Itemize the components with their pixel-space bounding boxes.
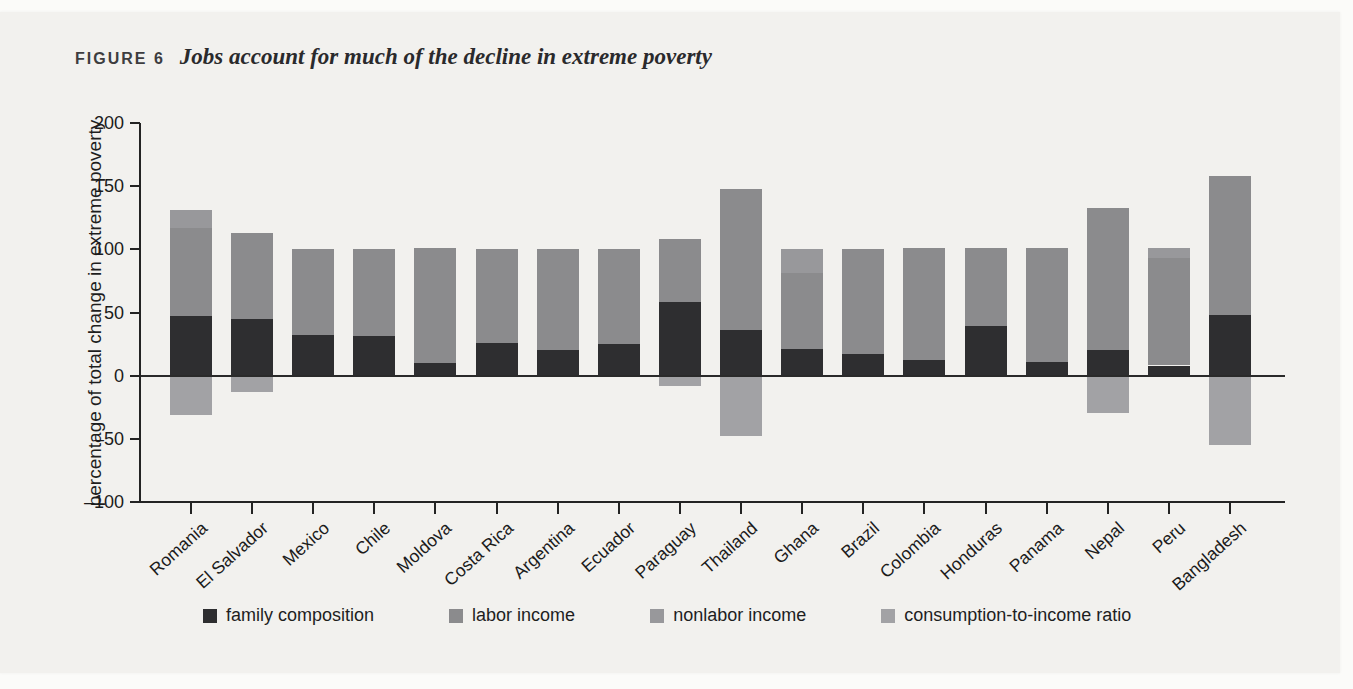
bar-segment-romania <box>170 210 212 228</box>
bar-segment-paraguay <box>659 239 701 302</box>
bar-segment-romania <box>170 316 212 375</box>
bar-segment-chile <box>353 249 395 336</box>
x-tick <box>985 503 987 514</box>
bar-segment-romania <box>170 228 212 316</box>
bar-segment-nepal <box>1087 376 1129 414</box>
x-tick <box>434 503 436 514</box>
y-tick <box>130 312 140 314</box>
bar-segment-bangladesh <box>1209 176 1251 315</box>
legend-item: labor income <box>449 605 575 626</box>
bar-segment-mexico <box>292 335 334 375</box>
legend-label: labor income <box>472 605 575 626</box>
legend-item: consumption-to-income ratio <box>881 605 1131 626</box>
y-tick <box>130 122 140 124</box>
bar-segment-el-salvador <box>231 376 273 392</box>
x-tick <box>679 503 681 514</box>
x-tick <box>801 503 803 514</box>
y-tick <box>130 438 140 440</box>
bar-segment-colombia <box>903 248 945 360</box>
legend-swatch <box>650 609 664 623</box>
legend-label: family composition <box>226 605 374 626</box>
bar-segment-moldova <box>414 363 456 376</box>
y-tick-label: 150 <box>60 175 124 197</box>
x-tick <box>862 503 864 514</box>
x-tick <box>373 503 375 514</box>
x-tick <box>190 503 192 514</box>
bar-segment-nepal <box>1087 350 1129 375</box>
bar-segment-moldova <box>414 248 456 363</box>
bar-segment-honduras <box>965 248 1007 326</box>
y-tick <box>130 185 140 187</box>
legend-swatch <box>203 609 217 623</box>
legend-swatch <box>881 609 895 623</box>
x-tick <box>1168 503 1170 514</box>
x-tick <box>1107 503 1109 514</box>
y-tick <box>130 375 140 377</box>
bar-segment-brazil <box>842 354 884 375</box>
bar-segment-el-salvador <box>231 319 273 376</box>
y-tick-label: 200 <box>60 112 124 134</box>
bar-segment-thailand <box>720 330 762 375</box>
x-tick <box>312 503 314 514</box>
bar-segment-bangladesh <box>1209 376 1251 445</box>
bar-segment-ghana <box>781 249 823 273</box>
x-tick <box>740 503 742 514</box>
bar-segment-paraguay <box>659 376 701 386</box>
bar-segment-chile <box>353 336 395 375</box>
bar-segment-panama <box>1026 362 1068 376</box>
bar-segment-nepal <box>1087 208 1129 351</box>
bar-segment-costa-rica <box>476 249 518 342</box>
zero-baseline <box>141 375 1285 377</box>
bar-segment-argentina <box>537 249 579 350</box>
x-tick <box>618 503 620 514</box>
bar-segment-romania <box>170 376 212 415</box>
bar-segment-thailand <box>720 189 762 330</box>
bar-segment-el-salvador <box>231 233 273 319</box>
bar-segment-ecuador <box>598 344 640 376</box>
x-tick <box>923 503 925 514</box>
x-tick <box>251 503 253 514</box>
legend-item: nonlabor income <box>650 605 806 626</box>
x-category-label-bangladesh: Bangladesh <box>1132 517 1251 627</box>
y-tick-label: –50 <box>60 428 124 450</box>
bar-segment-ecuador <box>598 249 640 344</box>
y-tick <box>130 248 140 250</box>
y-tick-label: 100 <box>60 238 124 260</box>
bar-segment-peru <box>1148 258 1190 365</box>
plot-area: 200150100500–50–100RomaniaEl SalvadorMex… <box>0 0 1353 689</box>
bar-segment-argentina <box>537 350 579 375</box>
legend-label: consumption-to-income ratio <box>904 605 1131 626</box>
y-tick-label: 0 <box>60 365 124 387</box>
bar-segment-colombia <box>903 360 945 375</box>
x-tick <box>557 503 559 514</box>
x-tick <box>496 503 498 514</box>
y-tick-label: 50 <box>60 302 124 324</box>
bar-segment-honduras <box>965 326 1007 375</box>
legend-swatch <box>449 609 463 623</box>
x-axis-line <box>139 501 1285 503</box>
x-tick <box>1229 503 1231 514</box>
x-tick <box>1046 503 1048 514</box>
bar-segment-costa-rica <box>476 343 518 376</box>
y-tick <box>130 501 140 503</box>
legend-label: nonlabor income <box>673 605 806 626</box>
bar-segment-brazil <box>842 249 884 354</box>
scanned-figure-page: FIGURE 6 Jobs account for much of the de… <box>0 0 1353 689</box>
bar-segment-bangladesh <box>1209 315 1251 376</box>
bar-segment-paraguay <box>659 302 701 375</box>
x-category-label-romania: Romania <box>93 517 212 627</box>
legend: family compositionlabor incomenonlabor i… <box>203 605 1131 626</box>
y-tick-label: –100 <box>60 491 124 513</box>
bar-segment-mexico <box>292 249 334 335</box>
bar-segment-peru <box>1148 248 1190 258</box>
bar-segment-ghana <box>781 349 823 376</box>
legend-item: family composition <box>203 605 374 626</box>
bar-segment-ghana <box>781 273 823 349</box>
bar-segment-thailand <box>720 376 762 437</box>
bar-segment-panama <box>1026 248 1068 362</box>
